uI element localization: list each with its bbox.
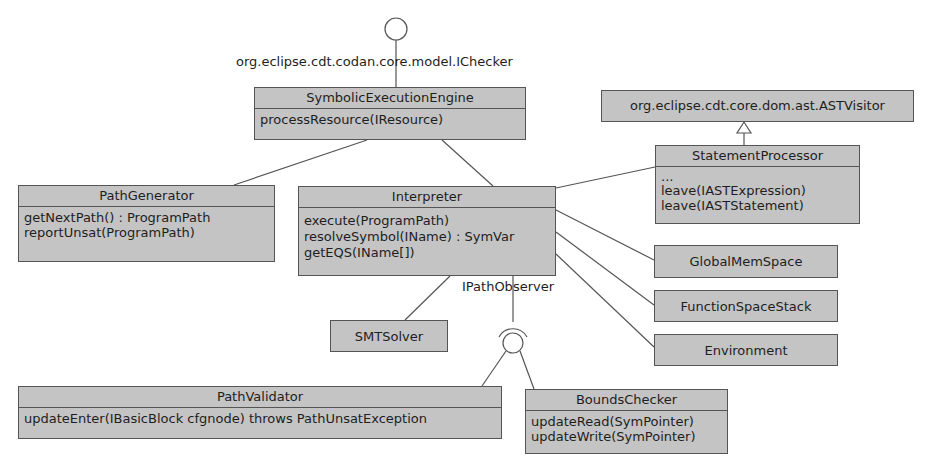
- class-bounds-checker: BoundsChecker updateRead(SymPointer) upd…: [525, 389, 728, 454]
- class-methods: updateRead(SymPointer) updateWrite(SymPo…: [526, 411, 727, 448]
- method: updateEnter(IBasicBlock cfgnode) throws …: [24, 411, 496, 426]
- class-interpreter: Interpreter execute(ProgramPath) resolve…: [298, 186, 556, 276]
- class-path-generator: PathGenerator getNextPath() : ProgramPat…: [18, 185, 275, 262]
- class-statement-processor: StatementProcessor ... leave(IASTExpress…: [655, 145, 860, 224]
- method: updateRead(SymPointer): [531, 414, 722, 429]
- class-name: PathValidator: [19, 387, 501, 408]
- class-methods: processResource(IResource): [255, 109, 525, 131]
- class-function-space-stack: FunctionSpaceStack: [654, 290, 838, 322]
- class-methods: ... leave(IASTExpression) leave(IASTStat…: [656, 167, 859, 217]
- class-name: Interpreter: [299, 187, 555, 208]
- method: ...: [661, 171, 854, 183]
- method: getEQS(IName[]): [304, 245, 550, 261]
- class-global-mem-space: GlobalMemSpace: [654, 245, 838, 278]
- class-methods: updateEnter(IBasicBlock cfgnode) throws …: [19, 408, 501, 430]
- method: leave(IASTExpression): [661, 183, 854, 198]
- class-environment: Environment: [654, 334, 838, 366]
- class-name: PathGenerator: [19, 186, 274, 207]
- class-smt-solver: SMTSolver: [330, 320, 448, 352]
- class-astvisitor: org.eclipse.cdt.core.dom.ast.ASTVisitor: [601, 90, 914, 122]
- method: resolveSymbol(IName) : SymVar: [304, 229, 550, 245]
- method: execute(ProgramPath): [304, 213, 550, 229]
- class-name: StatementProcessor: [656, 146, 859, 167]
- generalization-arrow-icon: [737, 122, 751, 133]
- class-name: SymbolicExecutionEngine: [255, 88, 525, 109]
- ipathobserver-ball-icon: [503, 333, 523, 353]
- class-name: org.eclipse.cdt.core.dom.ast.ASTVisitor: [602, 91, 913, 121]
- class-methods: execute(ProgramPath) resolveSymbol(IName…: [299, 208, 555, 265]
- method: updateWrite(SymPointer): [531, 429, 722, 444]
- method: processResource(IResource): [260, 112, 520, 127]
- method: getNextPath() : ProgramPath: [24, 210, 269, 225]
- class-symbolic-execution-engine: SymbolicExecutionEngine processResource(…: [254, 87, 526, 140]
- class-methods: getNextPath() : ProgramPath reportUnsat(…: [19, 207, 274, 244]
- class-name: BoundsChecker: [526, 390, 727, 411]
- ichecker-interface-icon: [385, 18, 407, 40]
- ichecker-interface-label: org.eclipse.cdt.codan.core.model.IChecke…: [236, 54, 513, 69]
- method: reportUnsat(ProgramPath): [24, 225, 269, 240]
- ipathobserver-interface-label: IPathObserver: [462, 279, 554, 294]
- method: leave(IASTStatement): [661, 198, 854, 213]
- class-path-validator: PathValidator updateEnter(IBasicBlock cf…: [18, 386, 502, 439]
